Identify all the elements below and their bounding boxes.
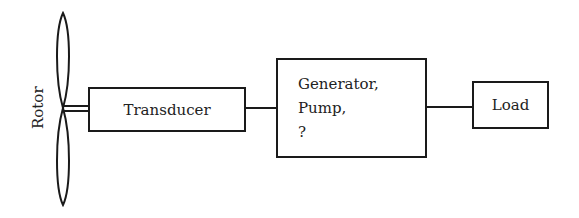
generator-block: Generator, Pump, ? (276, 58, 427, 158)
wind-turbine-block-diagram: Rotor Transducer Generator, Pump, ? Load (0, 0, 579, 218)
load-label: Load (474, 95, 547, 115)
rotor-label: Rotor (29, 89, 47, 129)
generator-label-line1: Generator, (298, 74, 379, 94)
transducer-label: Transducer (90, 100, 244, 120)
load-block: Load (472, 81, 549, 129)
rotor-shaft (63, 106, 88, 111)
generator-label-line3: ? (298, 122, 306, 142)
generator-label-line2: Pump, (298, 98, 346, 118)
rotor-icon (57, 13, 69, 205)
rotor-blade-upper (57, 13, 69, 108)
rotor-blade-lower (57, 108, 69, 205)
transducer-block: Transducer (88, 87, 246, 132)
